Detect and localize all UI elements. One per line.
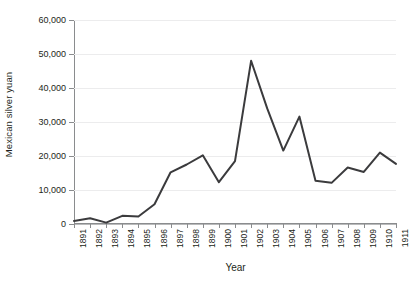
x-axis-tick-mark — [122, 224, 123, 228]
y-axis-tick-label: 10,000 — [38, 185, 66, 195]
y-axis-tick-label: 60,000 — [38, 15, 66, 25]
x-axis-tick-label: 1892 — [94, 229, 104, 248]
y-axis-tick-label: 20,000 — [38, 151, 66, 161]
x-axis-tick-mark — [364, 224, 365, 228]
x-axis-title: Year — [74, 262, 397, 273]
x-axis-tick-label: 1909 — [368, 229, 378, 248]
x-axis-tick-mark — [396, 224, 397, 228]
y-axis-tick-mark — [69, 156, 74, 157]
x-axis-tick-mark — [299, 224, 300, 228]
x-axis-tick-mark — [283, 224, 284, 228]
x-axis-tick-label: 1895 — [142, 229, 152, 248]
x-axis-tick-mark — [332, 224, 333, 228]
x-axis-tick-label: 1894 — [126, 229, 136, 248]
x-axis-tick-label: 1908 — [352, 229, 362, 248]
x-axis-tick-mark — [203, 224, 204, 228]
x-axis-tick-mark — [106, 224, 107, 228]
x-axis-tick-mark — [74, 224, 75, 228]
x-axis-tick-label: 1897 — [175, 229, 185, 248]
x-axis-tick-label: 1902 — [255, 229, 265, 248]
x-axis-tick-mark — [348, 224, 349, 228]
y-axis-tick-labels: 010,00020,00030,00040,00050,00060,000 — [16, 0, 70, 228]
x-axis-tick-mark — [219, 224, 220, 228]
x-axis-tick-mark — [316, 224, 317, 228]
x-axis-tick-label: 1907 — [336, 229, 346, 248]
plot-area — [74, 20, 396, 224]
x-axis-tick-label: 1906 — [320, 229, 330, 248]
y-axis-tick-mark — [69, 122, 74, 123]
x-axis-tick-label: 1910 — [384, 229, 394, 248]
y-axis-tick-mark — [69, 20, 74, 21]
x-axis-tick-label: 1891 — [78, 229, 88, 248]
x-axis-tick-label: 1904 — [287, 229, 297, 248]
line-chart-figure: Mexican silver yuan 010,00020,00030,0004… — [0, 0, 420, 284]
x-axis-tick-label: 1898 — [191, 229, 201, 248]
y-axis-tick-label: 50,000 — [38, 49, 66, 59]
x-axis-tick-mark — [380, 224, 381, 228]
data-series-line — [74, 20, 396, 224]
y-axis-tick-label: 30,000 — [38, 117, 66, 127]
x-axis-tick-label: 1899 — [207, 229, 217, 248]
x-axis-tick-mark — [235, 224, 236, 228]
x-axis-tick-mark — [187, 224, 188, 228]
x-axis-tick-label: 1903 — [271, 229, 281, 248]
x-axis-tick-mark — [90, 224, 91, 228]
y-axis-tick-label: 0 — [61, 219, 66, 229]
x-axis-tick-label: 1911 — [400, 229, 410, 247]
x-axis-tick-mark — [155, 224, 156, 228]
x-axis-tick-label: 1900 — [223, 229, 233, 248]
y-axis-title-label: Mexican silver yuan — [4, 71, 15, 156]
x-axis-tick-label: 1893 — [110, 229, 120, 248]
y-axis-tick-mark — [69, 54, 74, 55]
x-axis-tick-mark — [267, 224, 268, 228]
x-axis-tick-label: 1901 — [239, 229, 249, 248]
x-axis-tick-labels: 1891189218931894189518961897189818991900… — [74, 229, 397, 259]
x-axis-tick-mark — [251, 224, 252, 228]
y-axis-tick-mark — [69, 190, 74, 191]
x-axis-tick-label: 1896 — [159, 229, 169, 248]
y-axis-tick-label: 40,000 — [38, 83, 66, 93]
x-axis-tick-mark — [171, 224, 172, 228]
y-axis-tick-mark — [69, 88, 74, 89]
x-axis-tick-label: 1905 — [303, 229, 313, 248]
x-axis-tick-mark — [138, 224, 139, 228]
